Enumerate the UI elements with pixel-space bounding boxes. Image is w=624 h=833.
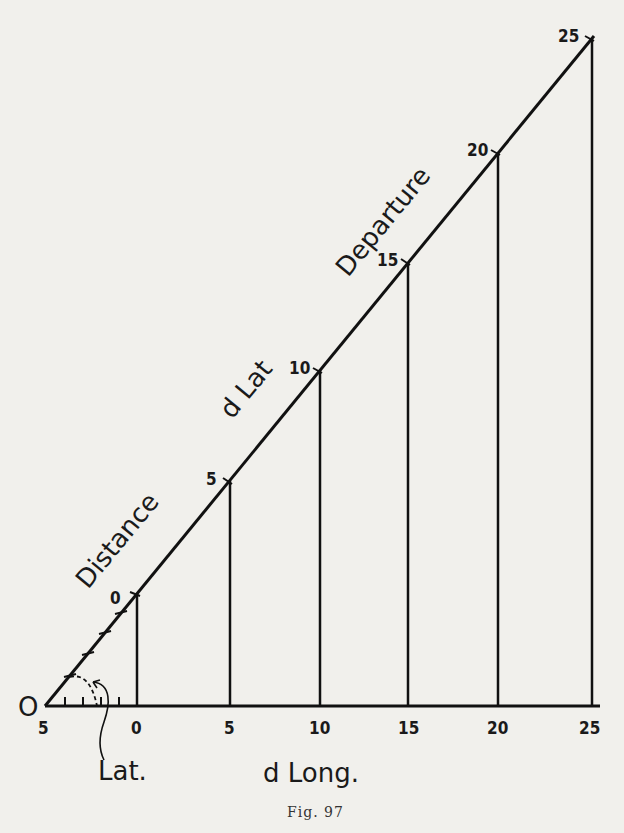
base-label-5: 5 <box>224 718 235 738</box>
lat-leader <box>93 682 108 760</box>
diag-label-15: 15 <box>377 250 398 270</box>
diag-label-10: 10 <box>289 358 310 378</box>
base-label-25: 25 <box>579 718 600 738</box>
traverse-diagram: O 5 0 5 10 15 20 25 0 5 10 15 20 25 Dist… <box>0 0 624 833</box>
d-lat-label: d Lat <box>213 354 278 424</box>
base-label-5-left: 5 <box>38 718 49 738</box>
diag-label-0: 0 <box>110 588 121 608</box>
diag-label-20: 20 <box>467 140 488 160</box>
base-label-15: 15 <box>398 718 419 738</box>
lat-label: Lat. <box>98 756 147 786</box>
base-label-20: 20 <box>487 718 508 738</box>
d-long-label: d Long. <box>263 758 359 788</box>
figure-caption: Fig. 97 <box>287 804 344 820</box>
figure-page: O 5 0 5 10 15 20 25 0 5 10 15 20 25 Dist… <box>0 0 624 833</box>
base-label-0: 0 <box>131 718 142 738</box>
origin-label: O <box>18 692 38 722</box>
diag-label-5: 5 <box>206 469 217 489</box>
diag-label-25: 25 <box>558 26 579 46</box>
base-label-10: 10 <box>309 718 330 738</box>
